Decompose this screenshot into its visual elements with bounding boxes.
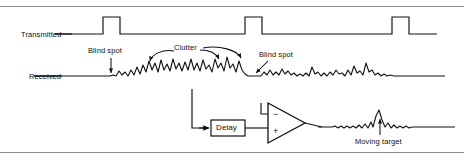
moving-target-label: Moving target xyxy=(355,137,402,146)
direct-path-line xyxy=(261,103,268,114)
received-label: Received xyxy=(29,72,61,81)
delay-tap-line xyxy=(192,89,206,128)
clutter-arrow-right xyxy=(200,50,219,59)
transmitted-waveform xyxy=(55,17,437,34)
blind-spot-label-1: Blind spot xyxy=(88,46,122,55)
transmitted-label: Transmitted xyxy=(21,30,61,39)
radar-mti-figure: Transmitted Received Blind spot Clutter … xyxy=(0,0,464,162)
opamp-output-line xyxy=(305,123,322,127)
clutter-arrow-far-right xyxy=(203,47,241,58)
opamp-minus-input-label: − xyxy=(273,110,278,119)
blind-spot-label-2: Blind spot xyxy=(259,50,293,59)
output-waveform xyxy=(318,110,455,128)
blind-spot-2-arrow xyxy=(256,61,268,73)
received-waveform xyxy=(34,57,445,76)
clutter-label: Clutter xyxy=(174,43,197,52)
opamp-plus-input-label: + xyxy=(273,127,278,136)
clutter-arrow-left xyxy=(150,51,174,61)
delay-block-label: Delay xyxy=(216,123,237,132)
